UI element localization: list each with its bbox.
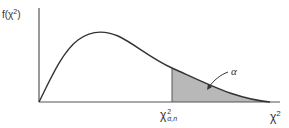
x-axis-label: χ2	[270, 110, 281, 123]
crit-label-sub: α,n	[167, 115, 177, 122]
y-axis-label: f(χ2)	[2, 8, 21, 20]
x-label-sup: 2	[276, 109, 280, 118]
critical-value-label: χ2α,n	[160, 109, 177, 123]
crit-label-base: χ	[160, 108, 166, 122]
crit-label-sup: 2	[167, 108, 177, 115]
shaded-tail-area	[172, 68, 270, 102]
chi-square-chart	[0, 0, 289, 128]
alpha-label: α	[231, 66, 237, 77]
alpha-arrow	[209, 72, 228, 87]
y-label-base: f(χ	[2, 9, 13, 20]
y-label-close: )	[17, 9, 20, 20]
